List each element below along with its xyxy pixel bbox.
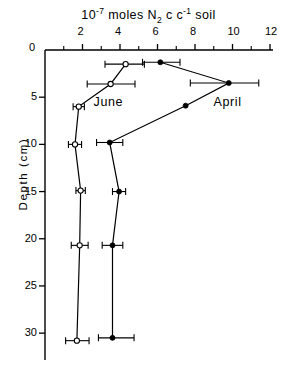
y-axis-tick-label: 25	[19, 279, 37, 291]
data-point-marker	[117, 189, 122, 194]
data-point-marker	[183, 103, 188, 108]
data-point-marker	[78, 188, 83, 193]
data-point-marker	[76, 104, 81, 109]
data-point-marker	[72, 142, 77, 147]
data-point-marker	[123, 62, 128, 67]
data-point-marker	[158, 60, 163, 65]
plot-area	[0, 0, 297, 373]
y-axis-tick-label: 5	[19, 90, 37, 102]
data-point-marker	[108, 81, 113, 86]
data-point-marker	[110, 335, 115, 340]
series-label-april: April	[214, 95, 242, 109]
y-axis-tick-label: 15	[19, 185, 37, 197]
data-point-marker	[107, 140, 112, 145]
x-axis-tick-label: 8	[190, 25, 196, 37]
data-point-marker	[226, 81, 231, 86]
y-axis-tick-label: 20	[19, 232, 37, 244]
y-axis-tick-label: 10	[19, 137, 37, 149]
series-label-june: June	[94, 95, 124, 109]
series-line	[110, 62, 229, 338]
x-axis-tick-label: 12	[265, 25, 277, 37]
x-axis-tick-label: 6	[153, 25, 159, 37]
data-point-marker	[74, 338, 79, 343]
nitrogen-depth-profile-figure: 10-7 moles N2 c c-1 soil Depth (cm) 0246…	[0, 0, 297, 373]
data-point-marker	[110, 243, 115, 248]
x-axis-tick-label: 2	[78, 25, 84, 37]
x-axis-tick-label: 10	[228, 25, 240, 37]
x-axis-tick-label: 4	[115, 25, 121, 37]
y-axis-tick-label: 30	[19, 326, 37, 338]
data-point-marker	[77, 243, 82, 248]
x-axis-tick-label: 0	[29, 41, 35, 53]
